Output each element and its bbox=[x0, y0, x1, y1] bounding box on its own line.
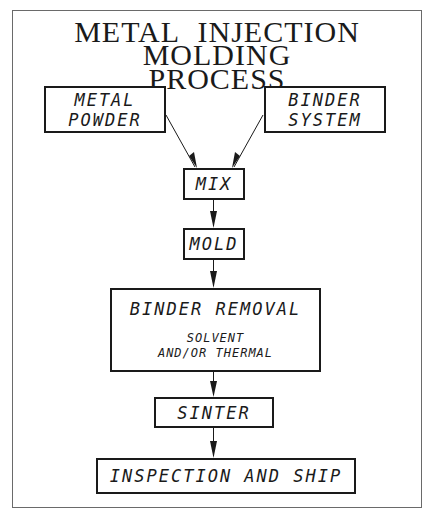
node-binder-system-line2: SYSTEM bbox=[288, 110, 361, 130]
node-binder-system-line1: BINDER bbox=[288, 90, 361, 110]
node-mold: MOLD bbox=[183, 228, 245, 260]
node-binder-removal: BINDER REMOVAL SOLVENT AND/OR THERMAL bbox=[110, 288, 321, 372]
node-mix-label: MIX bbox=[196, 174, 233, 194]
node-metal-powder: METAL POWDER bbox=[44, 86, 166, 133]
node-mold-label: MOLD bbox=[190, 234, 239, 254]
node-inspection-and-ship: INSPECTION AND SHIP bbox=[96, 458, 356, 494]
node-sinter: SINTER bbox=[154, 397, 274, 428]
arrow-powder-to-mix bbox=[166, 115, 195, 167]
node-binder-removal-sub2: AND/OR THERMAL bbox=[158, 346, 273, 361]
node-metal-powder-line1: METAL bbox=[74, 90, 135, 110]
arrow-binder-to-mix bbox=[234, 115, 263, 167]
node-binder-removal-label: BINDER REMOVAL bbox=[130, 299, 301, 319]
node-sinter-label: SINTER bbox=[177, 403, 250, 423]
node-binder-system: BINDER SYSTEM bbox=[264, 86, 386, 133]
node-binder-removal-sub1: SOLVENT bbox=[187, 331, 245, 346]
node-mix: MIX bbox=[183, 168, 245, 200]
node-metal-powder-line2: POWDER bbox=[68, 110, 141, 130]
node-inspection-label: INSPECTION AND SHIP bbox=[110, 466, 342, 486]
